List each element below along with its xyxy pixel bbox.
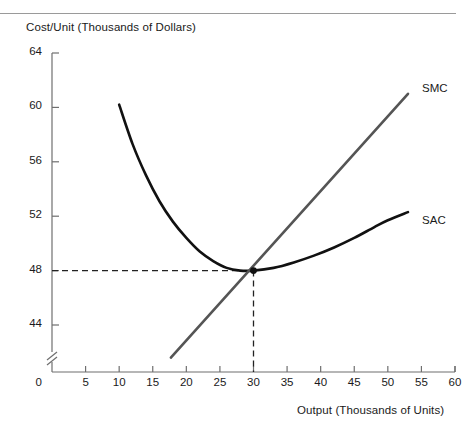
axes — [47, 53, 455, 372]
x-tick-label: 35 — [272, 376, 302, 388]
x-tick-label: 5 — [71, 376, 101, 388]
curve-label-smc: SMC — [422, 82, 448, 94]
x-tick-label: 10 — [104, 376, 134, 388]
curve-smc — [171, 94, 408, 358]
y-tick-label: 56 — [12, 154, 42, 166]
equilibrium-point — [250, 267, 257, 274]
x-tick-label: 15 — [138, 376, 168, 388]
x-tick-label: 40 — [306, 376, 336, 388]
y-tick-label: 48 — [12, 263, 42, 275]
x-tick-label: 60 — [440, 376, 470, 388]
chart-figure: Cost/Unit (Thousands of Dollars) Output … — [0, 0, 470, 439]
y-axis-origin-label: 0 — [12, 376, 42, 388]
y-tick-label: 60 — [12, 99, 42, 111]
plot-area — [0, 0, 470, 439]
curve-sac — [119, 105, 408, 271]
x-tick-label: 25 — [205, 376, 235, 388]
x-tick-label: 30 — [239, 376, 269, 388]
guide-lines — [52, 271, 254, 372]
x-tick-label: 20 — [171, 376, 201, 388]
x-tick-label: 50 — [373, 376, 403, 388]
y-tick-label: 64 — [12, 45, 42, 57]
y-tick-label: 44 — [12, 317, 42, 329]
x-tick-label: 45 — [339, 376, 369, 388]
y-tick-label: 52 — [12, 208, 42, 220]
x-tick-label: 55 — [406, 376, 436, 388]
curve-label-sac: SAC — [422, 214, 446, 226]
annotation-markers — [250, 267, 257, 274]
data-series — [119, 94, 408, 358]
